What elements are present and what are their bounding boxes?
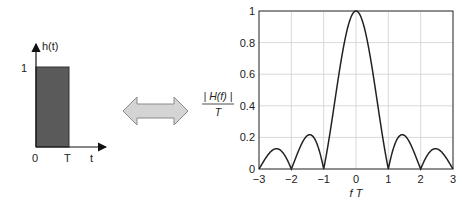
ylabel-numerator: | H(f) | [204, 90, 233, 102]
x-tick-label: 3 [450, 173, 456, 185]
x-tick-label: 0 [353, 173, 359, 185]
double-arrow-icon [123, 97, 188, 125]
x-tick-label: −1 [317, 173, 330, 185]
y-tick-label: 1 [249, 5, 255, 17]
x-tick-label: 2 [418, 173, 424, 185]
freq-ylabel: | H(f) | T [202, 90, 234, 118]
x-tick-label: −2 [285, 173, 298, 185]
y-tick-label: 0.4 [240, 100, 255, 112]
x-axis-label: t [90, 152, 93, 164]
y-tick-labels: 00.20.40.60.81 [240, 5, 255, 175]
y-tick-1: 1 [21, 62, 27, 74]
y-tick-label: 0.8 [240, 37, 255, 49]
ylabel-denominator: T [215, 106, 223, 118]
grid-lines [259, 11, 453, 169]
y-axis-label: h(t) [42, 40, 59, 52]
sinc-chart: 00.20.40.60.81 −3−2−10123 f T [240, 5, 456, 199]
x-tick-0: 0 [32, 152, 38, 164]
rect-pulse [36, 67, 69, 147]
x-axis-label: f T [350, 187, 364, 199]
figure-canvas: h(t) 1 0 T t | H(f) | T 00.20.40.60.81 −… [0, 0, 475, 210]
x-tick-T: T [64, 152, 71, 164]
y-tick-label: 0.2 [240, 131, 255, 143]
time-domain-plot: h(t) 1 0 T t [21, 40, 106, 164]
x-tick-label: 1 [385, 173, 391, 185]
y-tick-label: 0.6 [240, 68, 255, 80]
x-tick-label: −3 [253, 173, 266, 185]
x-tick-labels: −3−2−10123 [253, 173, 456, 185]
